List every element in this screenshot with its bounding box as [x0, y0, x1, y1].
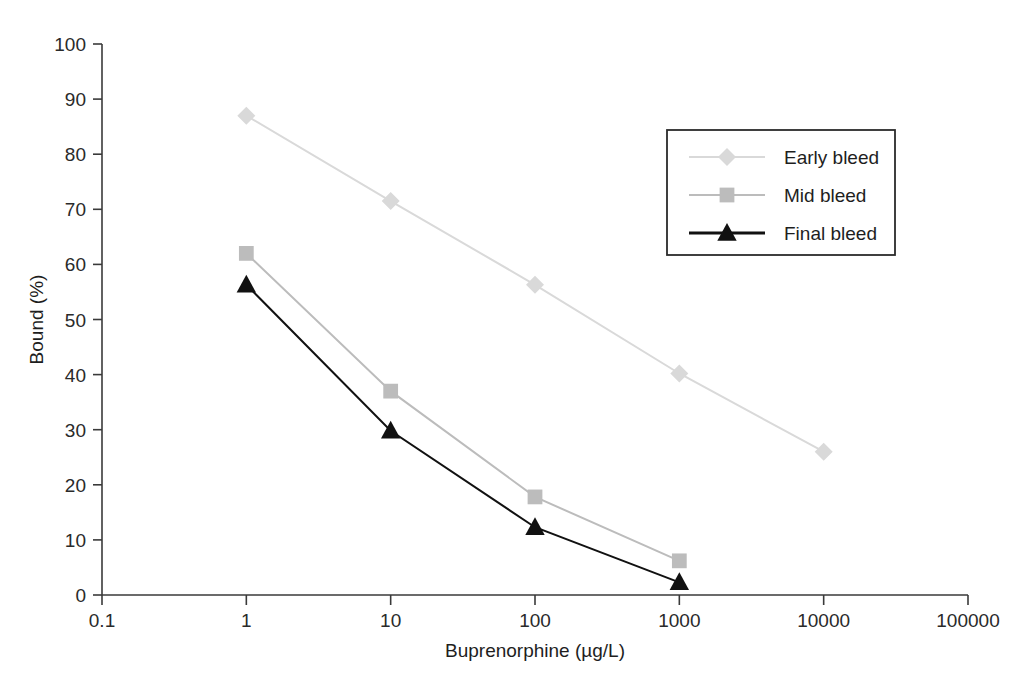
x-axis: 0.1110100100010000100000: [89, 595, 1000, 631]
y-tick-label: 60: [65, 254, 86, 275]
legend-label: Early bleed: [784, 147, 879, 168]
plot-area: 0102030405060708090100 0.111010010001000…: [26, 34, 1000, 661]
marker-square: [239, 246, 254, 261]
series-line: [246, 253, 679, 560]
y-tick-label: 40: [65, 365, 86, 386]
x-tick-label: 10: [380, 610, 401, 631]
marker-diamond: [526, 276, 544, 294]
x-tick-label: 100: [519, 610, 551, 631]
series-mid-bleed: [239, 246, 687, 568]
x-tick-label: 1: [241, 610, 252, 631]
series-final-bleed: [237, 275, 689, 590]
marker-diamond: [670, 364, 688, 382]
y-tick-label: 0: [75, 585, 86, 606]
line-chart: 0102030405060708090100 0.111010010001000…: [9, 11, 1018, 674]
figure-border: 0102030405060708090100 0.111010010001000…: [9, 11, 1018, 674]
x-tick-label: 10000: [797, 610, 850, 631]
legend-label: Final bleed: [784, 223, 877, 244]
marker-diamond: [382, 192, 400, 210]
marker-triangle: [237, 275, 256, 293]
marker-square: [720, 188, 735, 203]
x-axis-title: Buprenorphine (µg/L): [445, 640, 625, 661]
marker-diamond: [237, 107, 255, 125]
marker-square: [383, 384, 398, 399]
y-tick-label: 10: [65, 530, 86, 551]
y-tick-label: 50: [65, 310, 86, 331]
y-tick-label: 20: [65, 475, 86, 496]
marker-square: [672, 553, 687, 568]
y-tick-label: 100: [54, 34, 86, 55]
marker-square: [528, 490, 543, 505]
marker-triangle: [525, 517, 544, 535]
x-tick-label: 0.1: [89, 610, 115, 631]
legend-label: Mid bleed: [784, 185, 866, 206]
marker-diamond: [815, 443, 833, 461]
chart-legend: Early bleedMid bleedFinal bleed: [667, 130, 895, 255]
y-tick-label: 70: [65, 199, 86, 220]
x-tick-label: 1000: [658, 610, 700, 631]
y-axis-title: Bound (%): [26, 275, 47, 365]
series-line: [246, 285, 679, 583]
y-tick-label: 90: [65, 89, 86, 110]
y-tick-label: 30: [65, 420, 86, 441]
y-axis: 0102030405060708090100: [54, 34, 102, 606]
marker-triangle: [670, 572, 689, 590]
y-tick-label: 80: [65, 144, 86, 165]
x-tick-label: 100000: [936, 610, 999, 631]
